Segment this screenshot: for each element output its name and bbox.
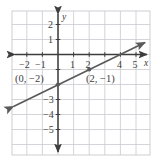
annotation-point-2-neg1: (2, −1) [86, 74, 115, 85]
x-tick-label-5: 5 [133, 60, 138, 70]
y-tick-label-neg5: −5 [43, 125, 54, 135]
y-tick-label-1: 1 [48, 35, 53, 45]
point-marker-0-neg2 [56, 82, 60, 86]
coordinate-graph-figure: −2 −1 1 2 4 5 2 1 −3 −4 −5 y x (0, −2) (… [0, 0, 158, 165]
x-tick-label-2: 2 [86, 60, 91, 70]
y-tick-label-2: 2 [48, 20, 53, 30]
y-tick-label-neg3: −3 [43, 95, 54, 105]
y-axis-label: y [62, 13, 66, 23]
x-tick-label-neg2: −2 [19, 60, 30, 70]
x-tick-label-4: 4 [117, 60, 122, 70]
y-tick-label-neg4: −4 [43, 110, 54, 120]
annotation-point-0-neg2: (0, −2) [15, 74, 44, 85]
x-tick-label-neg1: −1 [35, 60, 46, 70]
x-axis-label: x [144, 59, 148, 69]
x-tick-label-1: 1 [70, 60, 75, 70]
